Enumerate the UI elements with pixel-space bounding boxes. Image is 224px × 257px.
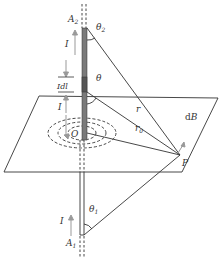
label-a2: A2	[67, 14, 79, 25]
label-current-top: I	[64, 39, 69, 49]
label-theta2: θ2	[96, 22, 105, 33]
biot-savart-diagram: A2 θ2 I Idl θ I r r0 O dB P θ1 I A1	[0, 0, 224, 257]
wire-lower	[80, 172, 84, 235]
label-theta: θ	[96, 73, 102, 83]
label-current-bottom: I	[59, 216, 64, 226]
label-a1: A1	[65, 238, 76, 249]
label-point-p: P	[181, 158, 189, 168]
label-theta1: θ1	[89, 204, 98, 215]
label-r: r	[136, 104, 141, 114]
wire-extension-bottom	[80, 140, 84, 257]
current-element	[82, 77, 87, 92]
label-db: dB	[185, 112, 198, 122]
db-arrow	[178, 142, 185, 153]
label-current-mid: I	[57, 102, 62, 112]
label-origin: O	[71, 129, 79, 139]
geometry-lines	[84, 28, 180, 235]
wire-extension-top	[82, 4, 86, 28]
label-r0: r0	[135, 123, 143, 134]
label-idl: Idl	[56, 82, 68, 91]
